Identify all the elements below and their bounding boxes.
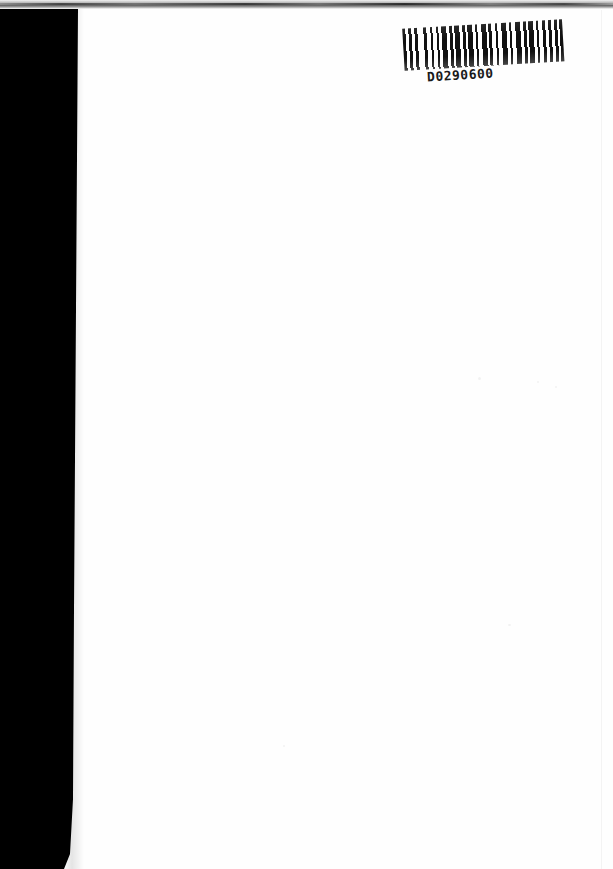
scanner-top-edge-band: [0, 0, 613, 9]
paper-right-edge: [601, 10, 602, 869]
scan-speck: [478, 377, 481, 380]
barcode-bars: [402, 19, 564, 70]
paper-surface: [0, 0, 613, 869]
barcode-number-text: D0290600: [427, 65, 494, 84]
scan-speck: [283, 745, 285, 747]
scan-speck: [508, 624, 511, 626]
library-barcode-label: D0290600: [398, 17, 572, 93]
binding-gutter-shadow: [0, 9, 86, 869]
scanned-page: D0290600: [0, 0, 613, 869]
scan-speck: [555, 386, 557, 388]
scan-speck: [537, 381, 539, 383]
